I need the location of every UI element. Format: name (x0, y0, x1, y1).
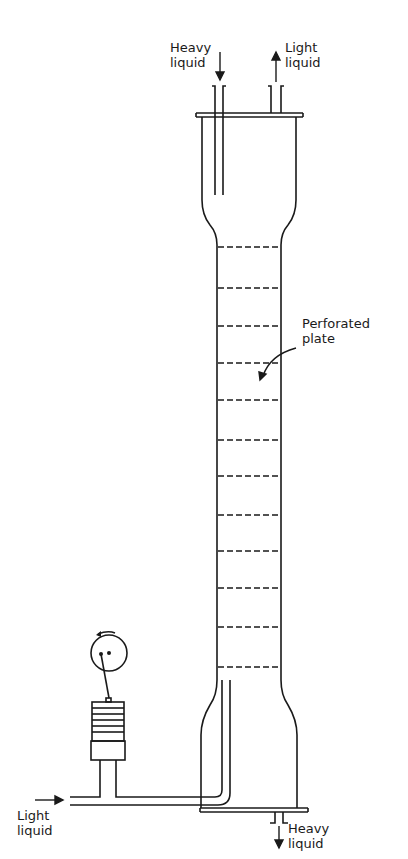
light-liquid-inlet-label: Light liquid (17, 808, 53, 838)
extraction-column-diagram (0, 0, 408, 859)
heavy-liquid-outlet-label: Heavy liquid (288, 821, 329, 851)
heavy-outlet-pipe (270, 812, 275, 823)
light-outlet-pipe (268, 86, 271, 113)
label-line: Perforated (302, 316, 370, 331)
label-line: liquid (285, 55, 321, 70)
column-right-wall (281, 117, 297, 808)
perforated-plates (218, 247, 281, 667)
light-feed-pipe (70, 760, 100, 797)
label-line: liquid (17, 823, 53, 838)
column-left-wall (201, 117, 217, 808)
plate-pointer-arrow-icon (263, 348, 296, 376)
label-line: Heavy (288, 821, 329, 836)
label-line: Heavy (170, 40, 211, 55)
heavy-inlet-pipe (212, 86, 215, 195)
label-line: plate (302, 331, 370, 346)
label-line: Light (285, 40, 321, 55)
label-line: Light (17, 808, 53, 823)
pump-base (91, 741, 125, 760)
light-liquid-outlet-label: Light liquid (285, 40, 321, 70)
label-line: liquid (288, 836, 329, 851)
label-line: liquid (170, 55, 211, 70)
rotation-arrow-icon (96, 631, 101, 637)
perforated-plate-label: Perforated plate (302, 316, 370, 346)
heavy-liquid-inlet-label: Heavy liquid (170, 40, 211, 70)
